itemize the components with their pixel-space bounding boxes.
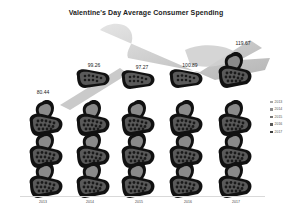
data-label-2013: 80.44 — [28, 89, 58, 95]
x-axis-line — [20, 196, 265, 197]
bar-2013 — [30, 100, 63, 198]
data-label-2014: 99.26 — [79, 62, 109, 68]
bar-2016 — [170, 69, 203, 198]
legend-swatch-icon — [270, 123, 273, 126]
legend: 2013 2014 2015 2016 2017 — [270, 98, 282, 136]
legend-label: 2016 — [275, 122, 283, 126]
bar-2015 — [122, 70, 155, 198]
legend-swatch-icon — [270, 131, 273, 134]
data-label-2015: 97.27 — [127, 64, 157, 70]
x-tick-2015: 2015 — [129, 200, 149, 204]
data-label-2016: 100.89 — [175, 62, 205, 68]
x-tick-2013: 2013 — [33, 200, 53, 204]
legend-item-2017: 2017 — [270, 128, 282, 136]
legend-swatch-icon — [270, 101, 273, 104]
legend-label: 2014 — [275, 107, 283, 111]
legend-label: 2013 — [275, 100, 283, 104]
legend-swatch-icon — [270, 108, 273, 111]
legend-label: 2017 — [275, 130, 283, 134]
x-tick-2014: 2014 — [80, 200, 100, 204]
legend-item-2013: 2013 — [270, 98, 282, 106]
x-tick-2016: 2016 — [178, 200, 198, 204]
legend-swatch-icon — [270, 116, 273, 119]
legend-item-2015: 2015 — [270, 113, 282, 121]
x-tick-2017: 2017 — [226, 200, 246, 204]
plot-area — [0, 0, 292, 213]
legend-item-2014: 2014 — [270, 106, 282, 114]
bar-2014 — [77, 69, 110, 198]
legend-label: 2015 — [275, 115, 283, 119]
legend-item-2016: 2016 — [270, 121, 282, 129]
data-label-2017: 119.67 — [228, 40, 258, 46]
bar-2017 — [219, 52, 252, 198]
